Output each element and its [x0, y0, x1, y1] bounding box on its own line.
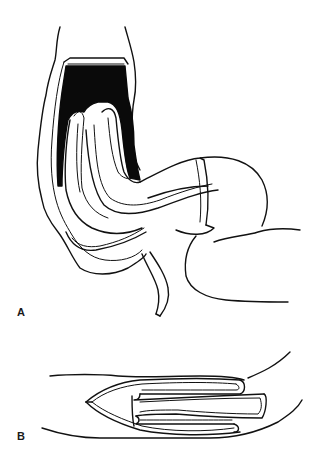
panel-b-drawing [42, 352, 302, 438]
panel-label-a: A [17, 306, 25, 318]
medical-diagram: A B [0, 0, 311, 455]
intussusception-illustration [0, 0, 311, 455]
panel-label-b: B [17, 430, 25, 442]
panel-a-drawing [37, 27, 300, 316]
